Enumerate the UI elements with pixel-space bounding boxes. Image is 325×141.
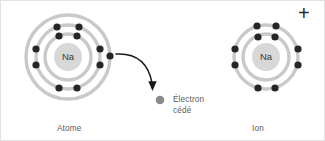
atom-nucleus-label: Na <box>62 51 75 62</box>
atom-electron <box>53 23 60 30</box>
ion-electron <box>254 33 261 40</box>
ion-electron <box>271 84 278 91</box>
atom-electron <box>96 45 103 52</box>
ion-nucleus-label: Na <box>260 51 273 62</box>
positive-charge-sign: + <box>298 3 310 23</box>
ion-group: Na <box>231 22 301 91</box>
atom-electron <box>73 32 80 39</box>
ion-caption: Ion <box>252 124 264 135</box>
atom-electron <box>55 32 62 39</box>
ion-electron <box>231 61 238 68</box>
released-electron-caption-line1: Électron <box>173 95 204 104</box>
atom-electron <box>32 45 39 52</box>
electron-transfer-arrow <box>116 54 157 91</box>
atom-electron <box>96 61 103 68</box>
ion-electron <box>231 45 238 52</box>
ion-electron <box>254 84 261 91</box>
diagram-canvas: Na <box>1 1 325 141</box>
atom-electron <box>75 23 82 30</box>
atom-group: Na <box>26 15 114 99</box>
released-electron-caption-line2: cédé <box>173 106 191 115</box>
ion-electron <box>253 22 260 29</box>
atom-electron <box>55 84 62 91</box>
ion-electron <box>294 45 301 52</box>
ion-electron <box>271 33 278 40</box>
atom-valence-electron <box>106 52 113 59</box>
released-electron <box>156 96 165 105</box>
released-electron-caption: Électroncédé <box>173 95 204 116</box>
ion-electron <box>272 22 279 29</box>
atom-caption: Atome <box>57 124 81 135</box>
ion-electron <box>294 61 301 68</box>
atom-electron <box>73 84 80 91</box>
ionisation-diagram: Na <box>0 0 325 141</box>
atom-electron <box>32 61 39 68</box>
